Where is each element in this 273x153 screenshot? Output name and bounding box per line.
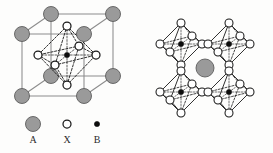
atom-x-sphere: [214, 96, 222, 104]
atom-x-sphere: [225, 109, 233, 117]
atom-x-sphere: [34, 51, 42, 59]
perovskite-structure-figure: AXB: [0, 0, 273, 153]
atom-x-sphere: [177, 67, 185, 75]
atom-x-sphere: [188, 32, 196, 40]
atom-x-sphere: [225, 67, 233, 75]
structure-canvas: AXB: [0, 0, 273, 153]
atom-x-sphere: [156, 40, 164, 48]
atom-b-sphere: [178, 89, 183, 94]
atom-a-sphere: [196, 59, 214, 77]
atom-x-sphere: [236, 32, 244, 40]
legend-label-a: A: [29, 134, 37, 145]
atom-b-sphere: [226, 89, 231, 94]
atom-x-sphere: [246, 88, 254, 96]
atom-x-sphere: [92, 51, 100, 59]
atom-x-sphere: [236, 80, 244, 88]
atom-x-sphere: [177, 19, 185, 27]
atom-x-sphere: [166, 48, 174, 56]
atom-x-sphere: [177, 109, 185, 117]
atom-a-sphere: [44, 69, 59, 84]
legend-label-b: B: [94, 134, 101, 145]
atom-x-sphere: [166, 96, 174, 104]
atom-x-sphere: [225, 19, 233, 27]
atom-a-sphere: [77, 89, 92, 104]
legend-symbol-a: [26, 117, 41, 132]
legend-symbol-b: [94, 121, 99, 126]
atom-b-sphere: [64, 52, 69, 57]
atom-x-sphere: [204, 88, 212, 96]
atom-a-sphere: [15, 89, 30, 104]
atom-b-sphere: [226, 41, 231, 46]
atom-a-sphere: [44, 7, 59, 22]
atom-x-sphere: [246, 40, 254, 48]
atom-x-sphere: [63, 22, 71, 30]
atom-a-sphere: [77, 27, 92, 42]
legend-symbol-x: [63, 120, 71, 128]
legend-label-x: X: [63, 134, 71, 145]
atom-a-sphere: [106, 7, 121, 22]
atom-x-sphere: [204, 40, 212, 48]
atom-a-sphere: [15, 27, 30, 42]
atom-x-sphere: [51, 61, 59, 69]
atom-b-sphere: [178, 41, 183, 46]
atom-x-sphere: [156, 88, 164, 96]
atom-x-sphere: [63, 81, 71, 89]
atom-x-sphere: [75, 42, 83, 50]
atom-x-sphere: [214, 48, 222, 56]
atom-a-sphere: [106, 69, 121, 84]
atom-x-sphere: [188, 80, 196, 88]
